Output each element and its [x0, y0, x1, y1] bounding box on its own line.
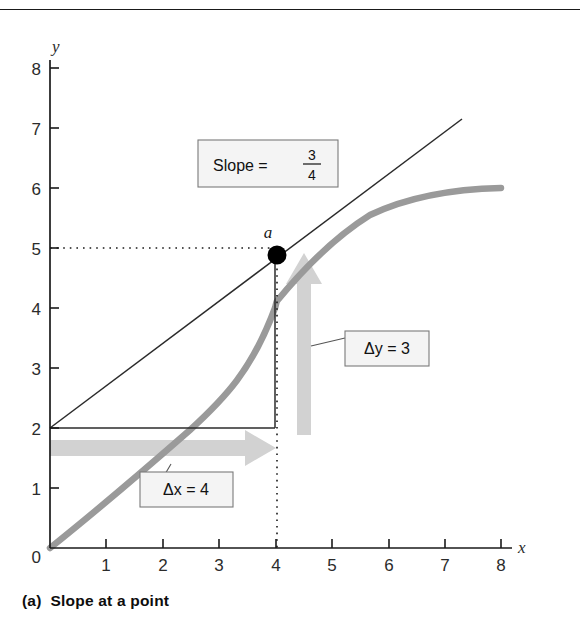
- x-tick-6: 6: [384, 556, 393, 575]
- x-tick-5: 5: [327, 556, 336, 575]
- y-tick-2: 2: [32, 420, 41, 439]
- y-axis-label: y: [50, 37, 60, 56]
- y-tick-0: 0: [32, 548, 41, 567]
- slope-at-a-point-chart: 8 7 6 5 4 3 2 1 0 1 2 3 4 5 6 7 8 y x a: [0, 0, 580, 632]
- x-tick-8: 8: [496, 556, 505, 575]
- x-axis-label: x: [517, 538, 526, 557]
- x-tick-7: 7: [440, 556, 449, 575]
- x-tick-1: 1: [101, 556, 110, 575]
- delta-x-callout-text: Δx = 4: [163, 481, 209, 498]
- point-a-marker: [268, 246, 287, 265]
- y-tick-4: 4: [32, 300, 41, 319]
- figure-root: 8 7 6 5 4 3 2 1 0 1 2 3 4 5 6 7 8 y x a: [0, 0, 580, 632]
- x-tick-2: 2: [158, 556, 167, 575]
- slope-numerator: 3: [308, 147, 316, 163]
- delta-y-callout-text: Δy = 3: [364, 340, 410, 357]
- delta-x-callout: Δx = 4: [140, 464, 233, 507]
- y-tick-3: 3: [32, 360, 41, 379]
- x-axis-tick-labels: 1 2 3 4 5 6 7 8: [101, 556, 505, 575]
- y-tick-1: 1: [32, 480, 41, 499]
- slope-denominator: 4: [308, 167, 316, 183]
- figure-caption-text: Slope at a point: [51, 592, 170, 609]
- figure-caption-prefix: (a): [22, 592, 42, 609]
- delta-y-callout: Δy = 3: [311, 331, 429, 366]
- slope-callout-prefix: Slope =: [213, 157, 268, 174]
- y-tick-5: 5: [32, 240, 41, 259]
- figure-caption: (a) Slope at a point: [22, 592, 169, 610]
- point-a-label: a: [264, 223, 273, 242]
- slope-callout: Slope = 3 4: [198, 140, 338, 187]
- y-axis-tick-labels: 8 7 6 5 4 3 2 1 0: [32, 60, 41, 567]
- y-tick-6: 6: [32, 180, 41, 199]
- x-tick-3: 3: [214, 556, 223, 575]
- delta-x-arrow: [50, 430, 276, 466]
- y-tick-7: 7: [32, 120, 41, 139]
- x-tick-4: 4: [271, 556, 280, 575]
- y-tick-8: 8: [32, 60, 41, 79]
